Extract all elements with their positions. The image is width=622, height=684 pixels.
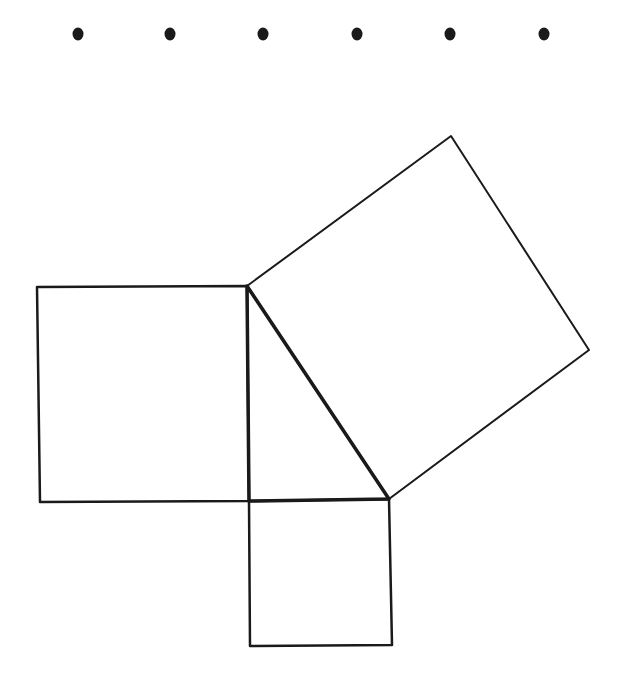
left-square-leg-a [37, 286, 249, 502]
hypotenuse-square [247, 136, 589, 499]
pythagorean-diagram [0, 0, 622, 684]
bottom-square-leg-b [249, 499, 392, 646]
dot [258, 28, 269, 41]
dot [73, 28, 84, 41]
right-triangle [247, 286, 389, 501]
squares-group [37, 136, 589, 646]
dot-row [73, 28, 550, 41]
diagram-svg [0, 0, 622, 684]
dot [165, 28, 176, 41]
triangle-outline [247, 286, 389, 501]
dot [445, 28, 456, 41]
dot [352, 28, 363, 41]
dot [539, 28, 550, 41]
